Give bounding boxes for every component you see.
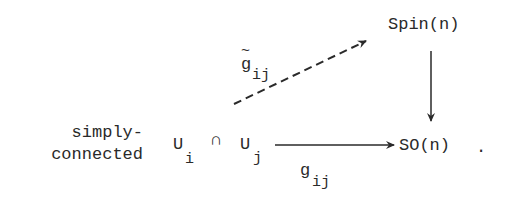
lift-label-g: g — [241, 56, 251, 73]
node-spin: Spin(n) — [388, 16, 459, 33]
intersection-symbol: ∩ — [211, 132, 221, 149]
lift-label-subscript: ij — [252, 68, 270, 83]
simply-connected-annotation: simply- connected — [51, 122, 143, 166]
annotation-line-1: simply- — [51, 122, 143, 144]
annotation-line-2: connected — [51, 144, 143, 166]
node-u-j-subscript: j — [253, 151, 262, 166]
diagram-canvas: Spin(n) SO(n) . simply- connected U i ∩ … — [0, 0, 510, 207]
node-u-i-subscript: i — [185, 152, 194, 167]
node-so: SO(n) — [399, 137, 450, 154]
transition-label-subscript: ij — [312, 175, 330, 190]
node-u-i: U — [173, 136, 183, 153]
node-u-j: U — [240, 136, 250, 153]
node-so-period: . — [476, 139, 486, 156]
transition-label-g: g — [300, 162, 310, 179]
